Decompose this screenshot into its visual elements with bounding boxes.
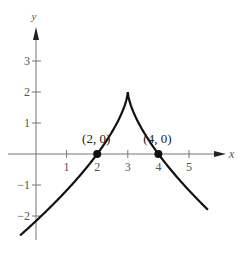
y-tick-label: −1 — [17, 178, 30, 192]
x-tick-label: 2 — [94, 160, 100, 174]
x-tick-label: 4 — [155, 160, 161, 174]
curve-line — [20, 92, 208, 235]
x-tick-label: 3 — [125, 160, 131, 174]
y-tick-label: −2 — [17, 209, 30, 223]
y-axis-label: y — [31, 10, 37, 22]
curve — [20, 92, 208, 235]
y-tick-label: 2 — [24, 85, 30, 99]
y-tick-label: 3 — [24, 54, 30, 68]
point-marker — [93, 150, 101, 158]
x-axis-label: x — [228, 147, 235, 161]
y-tick-label: 1 — [24, 116, 30, 130]
axes: xy12345321−1−2 — [8, 10, 235, 240]
y-axis-arrow-icon — [33, 27, 39, 40]
point-label: (4, 0) — [143, 131, 171, 146]
x-tick-label: 1 — [64, 160, 70, 174]
chart: xy12345321−1−2 (2, 0)(4, 0) — [0, 0, 238, 262]
x-axis-arrow-icon — [214, 151, 226, 157]
point-marker — [154, 150, 162, 158]
point-label: (2, 0) — [82, 131, 110, 146]
x-tick-label: 5 — [186, 160, 192, 174]
